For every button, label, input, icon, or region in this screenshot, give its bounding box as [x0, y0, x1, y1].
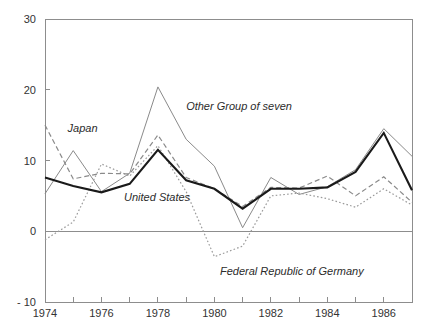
y-tick-label: 10 — [24, 155, 36, 167]
united-states-label: United States — [124, 191, 191, 203]
plot-frame — [45, 19, 412, 302]
line-chart: - 1001020301974197619781980198219841986 … — [0, 0, 433, 332]
x-tick-label: 1982 — [259, 307, 283, 319]
chart-container: - 1001020301974197619781980198219841986 … — [0, 0, 433, 332]
series-line-federal-republic-of-germany — [45, 146, 412, 257]
x-tick-label: 1980 — [202, 307, 226, 319]
y-tick-label: 20 — [24, 84, 36, 96]
y-tick-label: 30 — [24, 13, 36, 25]
other-g7-label: Other Group of seven — [186, 100, 292, 112]
x-tick-label: 1986 — [372, 307, 396, 319]
x-tick-label: 1984 — [315, 307, 339, 319]
y-tick-label: 0 — [30, 225, 36, 237]
x-tick-label: 1974 — [33, 307, 57, 319]
x-tick-label: 1976 — [89, 307, 113, 319]
japan-label: Japan — [67, 122, 98, 134]
frg-label: Federal Republic of Germany — [220, 265, 365, 277]
x-tick-label: 1978 — [146, 307, 170, 319]
